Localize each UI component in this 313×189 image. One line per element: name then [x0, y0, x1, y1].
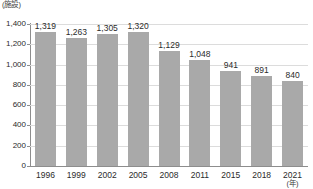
x-axis-label: 2011: [184, 170, 216, 180]
y-axis-label: 800: [0, 81, 26, 89]
x-axis-label: 2008: [153, 170, 185, 180]
x-axis-label: 2015: [215, 170, 247, 180]
bar: [159, 51, 180, 166]
bar-value-label: 891: [246, 66, 278, 75]
x-axis-label: 2005: [122, 170, 154, 180]
bar: [189, 60, 210, 166]
y-axis-tick: [27, 85, 30, 86]
y-axis-tick: [27, 65, 30, 66]
y-axis-unit-label: (施設): [2, 0, 21, 10]
y-axis-label: 400: [0, 121, 26, 129]
y-axis-label: 1,200: [0, 40, 26, 48]
y-axis-tick: [27, 105, 30, 106]
bar: [35, 32, 56, 166]
y-axis-tick: [27, 44, 30, 45]
x-axis-label: 2018: [246, 170, 278, 180]
bar-value-label: 1,320: [122, 22, 154, 31]
x-axis-label: 1999: [60, 170, 92, 180]
bar-value-label: 941: [215, 61, 247, 70]
y-axis-tick: [27, 166, 30, 167]
y-axis-label: 600: [0, 101, 26, 109]
bar-value-label: 1,129: [153, 41, 185, 50]
x-axis-unit-label: (年): [277, 180, 309, 188]
bar-chart: (施設) 02004006008001,0001,2001,400 1,3191…: [0, 0, 313, 189]
y-axis-label: 200: [0, 142, 26, 150]
bar-value-label: 1,263: [60, 28, 92, 37]
x-axis-label: 2002: [91, 170, 123, 180]
y-axis-label: 1,400: [0, 20, 26, 28]
bar: [128, 32, 149, 166]
bar-value-label: 1,305: [91, 24, 123, 33]
x-axis-line: [30, 166, 308, 167]
bar-value-label: 1,319: [29, 22, 61, 31]
bar: [66, 38, 87, 166]
bar: [251, 76, 272, 166]
bar: [97, 34, 118, 166]
bar-value-label: 840: [277, 71, 309, 80]
bar: [282, 81, 303, 166]
bar: [220, 71, 241, 166]
gridline: [30, 24, 308, 25]
bar-value-label: 1,048: [184, 50, 216, 59]
y-axis-label: 1,000: [0, 61, 26, 69]
y-axis-tick: [27, 146, 30, 147]
y-axis-label: 0: [0, 162, 26, 170]
x-axis-label: 1996: [29, 170, 61, 180]
y-axis-tick: [27, 125, 30, 126]
